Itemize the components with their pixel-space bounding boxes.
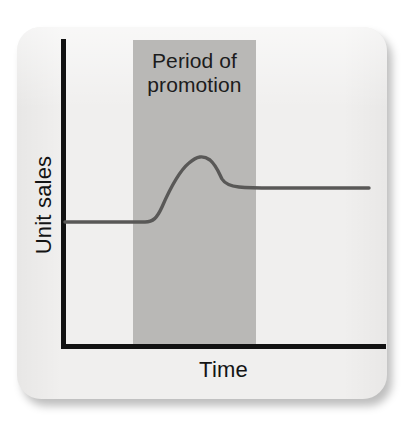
figure-root: Period of promotion Unit sales Time [0,0,420,424]
x-axis-label: Time [61,357,386,383]
diagram-card: Period of promotion Unit sales Time [17,27,387,399]
y-axis-label: Unit sales [31,145,57,265]
promotion-period-label: Period of promotion [133,49,256,96]
plot-area: Period of promotion Unit sales Time [17,27,387,399]
